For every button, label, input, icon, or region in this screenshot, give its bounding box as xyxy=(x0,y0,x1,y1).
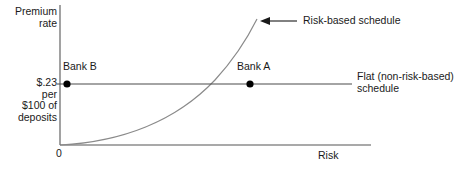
y-axis-title: Premiumrate xyxy=(0,6,57,29)
bank-a-label: Bank A xyxy=(237,61,270,73)
risk-based-curve xyxy=(60,19,257,145)
y-axis-title-line1: Premium xyxy=(15,5,57,17)
risk-premium-diagram: Premiumrate $.23 per $100 of deposits 0 … xyxy=(0,0,468,175)
bank-a-point xyxy=(246,80,253,87)
flat-schedule-annotation: Flat (non-risk-based) schedule xyxy=(357,71,454,94)
risk-based-annotation: Risk-based schedule xyxy=(303,15,400,27)
x-axis-title: Risk xyxy=(318,150,338,162)
y-tick-label: $.23 per $100 of deposits xyxy=(0,77,57,123)
origin-label: 0 xyxy=(56,148,62,160)
arrow-left-icon xyxy=(260,17,270,25)
bank-b-point xyxy=(63,80,70,87)
y-axis-title-line2: rate xyxy=(39,17,57,29)
bank-b-label: Bank B xyxy=(63,61,97,73)
